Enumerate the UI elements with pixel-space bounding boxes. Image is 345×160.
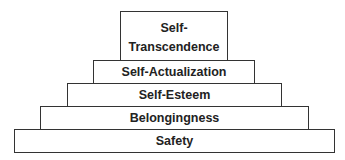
tier-label-line1: Self- (160, 21, 187, 35)
tier-label: Self-Actualization (122, 65, 227, 79)
tier-label: Safety (156, 134, 194, 148)
tier-self-actualization: Self-Actualization (93, 60, 255, 84)
tier-label-line2: Transcendence (128, 40, 219, 54)
tier-safety: Safety (14, 129, 335, 153)
tier-label: Belongingness (130, 111, 220, 125)
tier-self-transcendence: Self- Transcendence (120, 11, 228, 61)
tier-label: Self-Esteem (139, 88, 211, 102)
tier-self-esteem: Self-Esteem (67, 83, 282, 107)
tier-belongingness: Belongingness (40, 106, 309, 130)
